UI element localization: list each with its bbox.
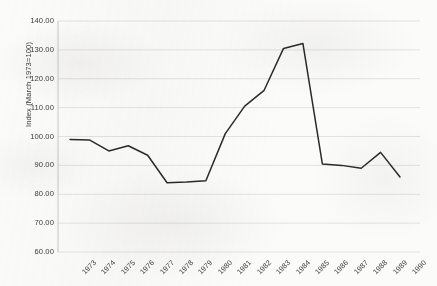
y-axis-tick-label: 100.00 xyxy=(10,132,54,141)
y-axis-tick-label: 120.00 xyxy=(10,74,54,83)
y-axis-tick-label: 60.00 xyxy=(10,247,54,256)
data-line xyxy=(70,44,400,183)
y-axis-tick-label: 80.00 xyxy=(10,189,54,198)
gridlines-group xyxy=(58,21,420,252)
line-chart: Index (March 1973=100) 60.0070.0080.0090… xyxy=(0,0,437,286)
y-axis-tick-label: 130.00 xyxy=(10,45,54,54)
data-series-group xyxy=(70,44,400,183)
y-axis-tick-label: 140.00 xyxy=(10,16,54,25)
plot-area xyxy=(0,0,437,286)
y-axis-tick-label: 70.00 xyxy=(10,218,54,227)
y-axis-tick-label: 90.00 xyxy=(10,160,54,169)
y-axis-tick-label: 110.00 xyxy=(10,103,54,112)
